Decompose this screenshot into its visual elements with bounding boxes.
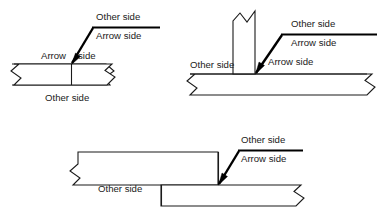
tee-member-other-side-label: Other side [190, 59, 234, 70]
lap-joint-arrow-head [219, 173, 228, 185]
butt-joint-arrow-word-label: Arrow [41, 50, 66, 61]
lap-plate-other-side-label: Other side [98, 183, 142, 194]
welding-symbols-figure: Other side Arrow side Arrow side Other s… [0, 0, 386, 223]
butt-ref-other-side-label: Other side [96, 11, 140, 22]
butt-joint-side-word-label: side [78, 50, 96, 61]
lap-joint-lower-plate [161, 185, 304, 206]
tee-joint-base-plate [187, 74, 375, 95]
lap-joint-diagram: Other side Arrow side Other side [70, 134, 304, 206]
lap-ref-other-side-label: Other side [241, 134, 285, 145]
butt-plate-other-side-label: Other side [45, 92, 89, 103]
butt-joint-plate-outline [11, 64, 115, 85]
butt-joint-diagram: Other side Arrow side Arrow side Other s… [11, 11, 160, 103]
lap-ref-arrow-side-label: Arrow side [241, 153, 286, 164]
tee-joint-vertical-member [233, 11, 255, 74]
lap-joint-upper-plate [70, 152, 218, 185]
butt-ref-arrow-side-label: Arrow side [96, 30, 141, 41]
welding-diagrams-canvas: Other side Arrow side Arrow side Other s… [0, 0, 386, 223]
tee-joint-arrow-side-label: Arrow side [268, 56, 313, 67]
tee-ref-other-side-label: Other side [291, 18, 335, 29]
tee-ref-arrow-side-label: Arrow side [291, 37, 336, 48]
tee-joint-diagram: Other side Arrow side Arrow side Other s… [187, 11, 377, 95]
